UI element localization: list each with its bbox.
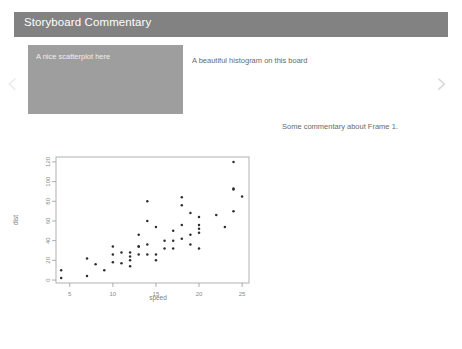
x-tick-label: 25 — [239, 291, 246, 297]
page-title: Storyboard Commentary — [24, 16, 151, 28]
data-point — [215, 214, 218, 217]
data-point — [181, 224, 184, 227]
data-point — [198, 247, 201, 250]
y-tick-label: 100 — [45, 176, 51, 187]
data-point — [86, 275, 89, 278]
scatterplot-svg: 020406080100120 510152025 speed dist — [8, 148, 270, 308]
data-point — [112, 261, 115, 264]
data-point — [172, 230, 175, 233]
data-point — [181, 204, 184, 207]
data-point — [146, 253, 149, 256]
data-point — [94, 263, 97, 266]
y-tick-label: 120 — [45, 156, 51, 167]
y-tick-label: 80 — [45, 197, 51, 204]
frame-commentary: Some commentary about Frame 1. — [282, 122, 398, 131]
data-point — [189, 243, 192, 246]
data-point — [120, 251, 123, 254]
scatterplot-chart: 020406080100120 510152025 speed dist — [8, 148, 270, 308]
data-point — [129, 259, 132, 262]
data-point — [129, 255, 132, 257]
data-point — [129, 251, 132, 254]
data-point — [112, 253, 115, 256]
data-point — [155, 259, 158, 262]
data-point — [198, 224, 201, 227]
data-point — [172, 247, 175, 250]
data-point — [146, 200, 149, 203]
data-point — [198, 216, 201, 219]
data-point — [241, 195, 244, 198]
data-point — [189, 234, 192, 237]
data-point — [181, 237, 184, 240]
y-axis-label: dist — [12, 215, 19, 225]
data-point — [198, 228, 201, 231]
data-point — [137, 234, 140, 237]
plot-frame — [56, 157, 249, 283]
x-tick-label: 10 — [110, 291, 117, 297]
y-axis: 020406080100120 — [45, 156, 56, 281]
data-point — [137, 245, 140, 248]
data-point — [146, 220, 149, 223]
data-point — [163, 239, 166, 242]
storyboard-page: Storyboard Commentary ‹ › A nice scatter… — [0, 0, 462, 349]
data-points — [60, 161, 243, 280]
x-tick-label: 20 — [196, 291, 203, 297]
data-point — [232, 210, 235, 213]
card-caption: A nice scatterplot here — [36, 52, 110, 61]
data-point — [232, 161, 235, 164]
x-tick-label: 5 — [68, 291, 72, 297]
data-point — [224, 226, 227, 229]
data-point — [60, 277, 63, 280]
data-point — [172, 239, 175, 242]
data-point — [120, 262, 123, 265]
x-axis-label: speed — [149, 294, 167, 302]
y-tick-label: 40 — [45, 237, 51, 244]
y-tick-label: 20 — [45, 256, 51, 263]
data-point — [198, 232, 201, 235]
data-point — [60, 269, 63, 272]
data-point — [155, 253, 158, 256]
header-bar: Storyboard Commentary — [14, 12, 448, 37]
data-point — [146, 243, 149, 246]
data-point — [112, 245, 115, 248]
data-point — [232, 187, 235, 190]
data-point — [163, 247, 166, 250]
y-tick-label: 0 — [45, 278, 51, 282]
data-point — [137, 253, 140, 256]
data-point — [181, 196, 184, 199]
scatterplot-placeholder-card[interactable]: A nice scatterplot here — [28, 45, 183, 114]
histogram-caption: A beautiful histogram on this board — [192, 56, 308, 65]
data-point — [86, 257, 89, 260]
data-point — [129, 265, 132, 268]
data-point — [155, 226, 158, 229]
data-point — [103, 269, 106, 272]
data-point — [189, 212, 192, 215]
y-tick-label: 60 — [45, 217, 51, 224]
